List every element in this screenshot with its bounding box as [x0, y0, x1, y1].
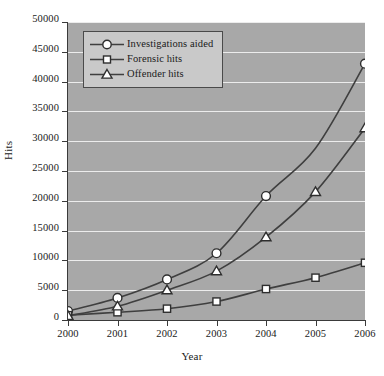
data-point-triangle: [360, 123, 365, 132]
data-point-square: [312, 274, 319, 281]
y-tick-mark: [62, 82, 67, 83]
data-point-triangle: [212, 266, 222, 275]
x-axis-title: Year: [0, 350, 384, 362]
y-axis-title: Hits: [2, 141, 14, 160]
data-point-circle: [262, 192, 271, 201]
legend-label: Investigations aided: [127, 39, 213, 50]
chart-figure: 0500010000150002000025000300003500040000…: [0, 0, 384, 376]
legend-marker-triangle-icon: [90, 68, 124, 81]
series-line-triangle: [68, 128, 365, 316]
data-point-circle: [212, 249, 221, 258]
y-tick-label: 10000: [32, 252, 59, 263]
x-tick-label: 2002: [156, 329, 177, 340]
y-tick-mark: [62, 231, 67, 232]
y-tick-label: 15000: [32, 223, 59, 234]
x-tick-mark: [316, 321, 317, 326]
y-tick-label: 30000: [32, 133, 59, 144]
legend-label: Offender hits: [127, 69, 184, 80]
y-tick-mark: [62, 52, 67, 53]
y-tick-label: 35000: [32, 103, 59, 114]
y-tick-label: 5000: [38, 282, 59, 293]
data-point-square: [163, 305, 170, 312]
y-tick-mark: [62, 22, 67, 23]
y-tick-mark: [62, 260, 67, 261]
y-tick-mark: [62, 201, 67, 202]
y-tick-label: 0: [54, 312, 59, 323]
legend-label: Forensic hits: [127, 54, 182, 65]
x-tick-mark: [68, 321, 69, 326]
y-tick-label: 50000: [32, 14, 59, 25]
data-point-circle: [163, 275, 172, 284]
x-tick-mark: [365, 321, 366, 326]
x-tick-mark: [118, 321, 119, 326]
y-tick-mark: [62, 141, 67, 142]
legend-marker-circle-icon: [90, 38, 124, 51]
x-tick-label: 2006: [354, 329, 375, 340]
legend: Investigations aidedForensic hitsOffende…: [83, 31, 223, 88]
x-tick-label: 2003: [206, 329, 227, 340]
x-tick-mark: [167, 321, 168, 326]
legend-marker-square-icon: [90, 53, 124, 66]
legend-item: Investigations aided: [90, 37, 213, 52]
y-axis-line: [67, 22, 68, 321]
y-tick-label: 45000: [32, 44, 59, 55]
legend-item: Offender hits: [90, 67, 213, 82]
y-tick-label: 20000: [32, 193, 59, 204]
y-tick-mark: [62, 320, 67, 321]
x-tick-label: 2001: [107, 329, 128, 340]
y-tick-mark: [62, 290, 67, 291]
x-tick-mark: [217, 321, 218, 326]
data-point-circle: [361, 59, 365, 68]
legend-item: Forensic hits: [90, 52, 213, 67]
y-tick-mark: [62, 171, 67, 172]
data-point-square: [262, 285, 269, 292]
y-tick-label: 40000: [32, 74, 59, 85]
x-tick-mark: [266, 321, 267, 326]
x-tick-label: 2000: [57, 329, 78, 340]
x-tick-label: 2005: [305, 329, 326, 340]
y-tick-mark: [62, 111, 67, 112]
x-tick-label: 2004: [255, 329, 276, 340]
y-tick-label: 25000: [32, 163, 59, 174]
data-point-square: [213, 298, 220, 305]
data-point-square: [361, 259, 365, 266]
